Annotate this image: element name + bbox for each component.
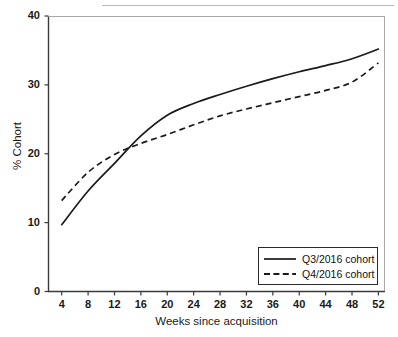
y-tick-label: 0 — [10, 285, 40, 297]
series-line-q3-2016 — [62, 49, 379, 225]
chart-figure: 010203040 481216202428323640444852 Weeks… — [0, 0, 398, 337]
legend-item-q3-2016: Q3/2016 cohort — [263, 251, 372, 266]
legend-swatch-solid-icon — [263, 254, 297, 264]
y-tick-label: 30 — [10, 78, 40, 90]
chart-legend: Q3/2016 cohort Q4/2016 cohort — [258, 247, 378, 285]
x-tick-label: 52 — [363, 298, 393, 310]
y-tick-label: 10 — [10, 216, 40, 228]
plot-canvas — [0, 0, 398, 337]
y-tick-label: 40 — [10, 9, 40, 21]
legend-swatch-dashed-icon — [263, 269, 297, 279]
legend-item-q4-2016: Q4/2016 cohort — [263, 266, 372, 281]
legend-label-q4-2016: Q4/2016 cohort — [302, 268, 374, 280]
series-line-q4-2016 — [62, 63, 379, 201]
x-axis-title: Weeks since acquisition — [48, 315, 385, 327]
legend-label-q3-2016: Q3/2016 cohort — [302, 253, 374, 265]
y-axis-title: % Cohort — [11, 101, 23, 191]
